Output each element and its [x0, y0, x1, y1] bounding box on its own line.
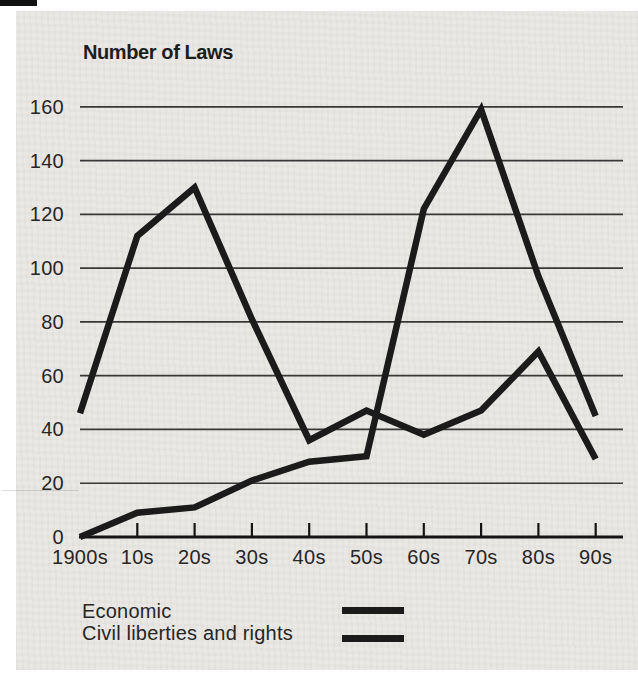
- y-axis-label-80: 80: [0, 311, 64, 333]
- y-axis-label-40: 40: [0, 418, 64, 440]
- legend-label-civil-liberties: Civil liberties and rights: [82, 622, 293, 644]
- y-axis-label-0: 0: [0, 526, 64, 548]
- legend-swatch-civil-liberties-line: [342, 635, 404, 642]
- y-axis-label-160: 160: [0, 96, 64, 118]
- x-axis-label-90s: 90s: [560, 546, 632, 568]
- y-axis-label-120: 120: [0, 203, 64, 225]
- scanned-page: Number of Laws Economic Civil liberties …: [0, 0, 638, 686]
- series-line-civil-liberties-and-rights: [80, 110, 596, 538]
- y-axis-label-60: 60: [0, 365, 64, 387]
- y-axis-label-140: 140: [0, 150, 64, 172]
- y-axis-label-100: 100: [0, 257, 64, 279]
- legend-label-economic: Economic: [82, 600, 171, 622]
- series-line-economic: [80, 188, 596, 460]
- chart-canvas: [0, 0, 638, 686]
- y-axis-label-20: 20: [0, 472, 64, 494]
- legend-swatch-economic-line: [342, 607, 404, 614]
